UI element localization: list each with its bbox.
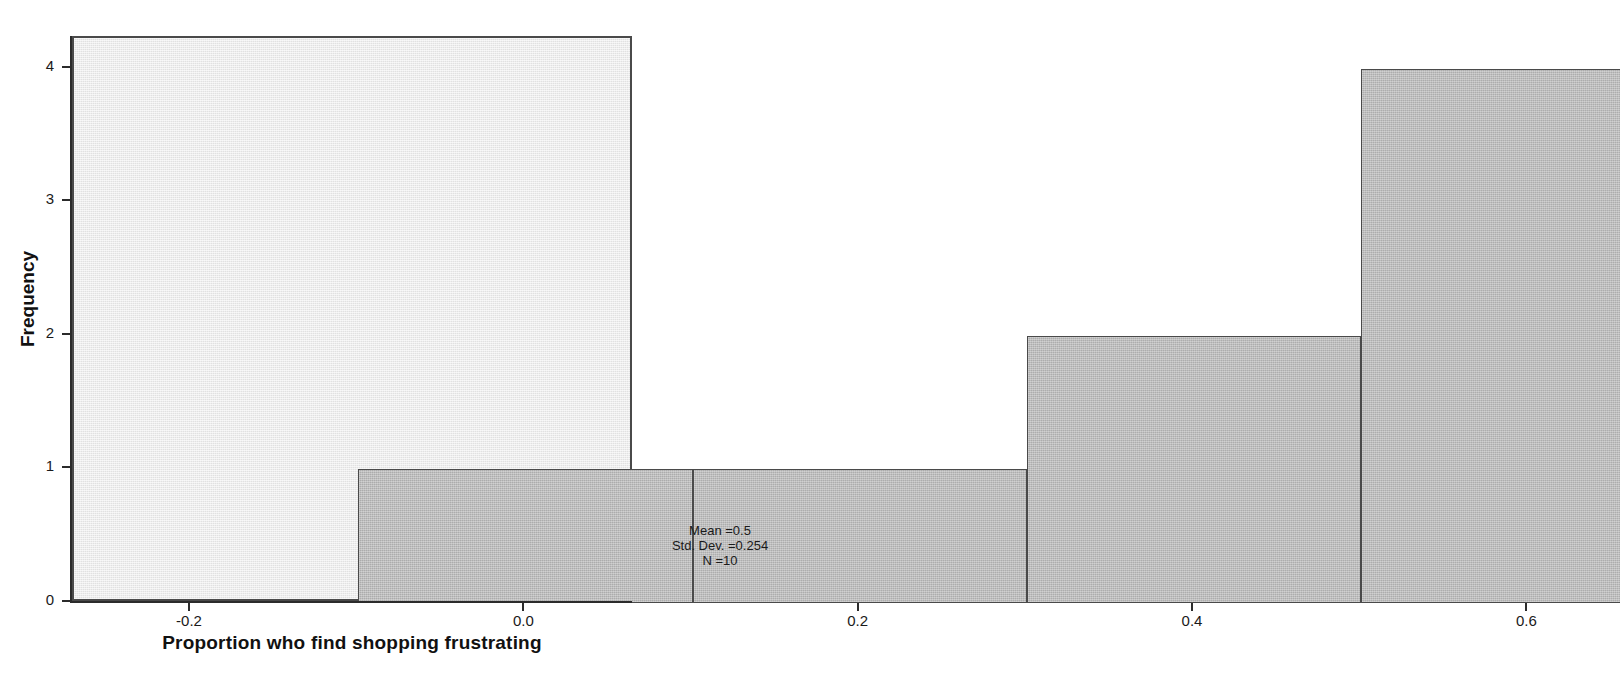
x-tick-label: 0.2 [828, 612, 888, 629]
histogram-bar [1361, 69, 1620, 603]
x-tick-label: 0.0 [493, 612, 553, 629]
y-tick-label: 1 [14, 457, 54, 474]
x-tick-label: -0.2 [159, 612, 219, 629]
y-axis-line [70, 36, 72, 603]
x-tick-label: 0.4 [1162, 612, 1222, 629]
y-tick-mark [62, 600, 70, 602]
x-tick-mark [1191, 603, 1193, 611]
x-tick-mark [857, 603, 859, 611]
histogram-bar [1027, 336, 1361, 603]
y-tick-label: 4 [14, 57, 54, 74]
y-tick-label: 0 [14, 591, 54, 608]
x-tick-mark [522, 603, 524, 611]
statistics-annotation: Mean =0.5 Std. Dev. =0.254 N =10 [640, 523, 800, 568]
y-tick-mark [62, 466, 70, 468]
y-tick-mark [62, 333, 70, 335]
x-tick-mark [188, 603, 190, 611]
y-tick-label: 3 [14, 190, 54, 207]
y-tick-mark [62, 199, 70, 201]
x-tick-mark [1525, 603, 1527, 611]
stat-n: N =10 [640, 553, 800, 568]
stat-mean: Mean =0.5 [640, 523, 800, 538]
x-axis-line [72, 601, 632, 603]
x-axis-title: Proportion who find shopping frustrating [72, 632, 632, 654]
plot-area [72, 36, 632, 601]
stat-std-dev: Std. Dev. =0.254 [640, 538, 800, 553]
x-tick-label: 0.6 [1496, 612, 1556, 629]
y-axis-title: Frequency [17, 209, 39, 389]
y-tick-mark [62, 66, 70, 68]
